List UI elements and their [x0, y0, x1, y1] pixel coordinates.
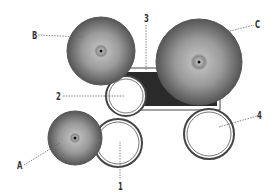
cymbal-c — [156, 19, 242, 105]
label-c: C — [255, 19, 260, 30]
label-b: B — [32, 30, 37, 41]
drum-kit-diagram — [0, 0, 277, 196]
label-3: 3 — [144, 13, 149, 24]
cymbal-b — [67, 17, 135, 85]
label-a: A — [17, 160, 22, 171]
label-4: 4 — [257, 110, 262, 121]
label-2: 2 — [56, 91, 61, 102]
floor-tom-4 — [184, 109, 234, 159]
cymbal-a — [48, 111, 102, 165]
label-1: 1 — [118, 181, 123, 192]
